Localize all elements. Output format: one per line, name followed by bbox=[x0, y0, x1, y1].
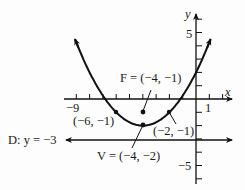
y-tick-neg5-label: −5 bbox=[178, 159, 191, 173]
x-axis-label: x bbox=[224, 85, 231, 99]
y-tick-5-label: 5 bbox=[186, 27, 192, 41]
parabola-arrow-left bbox=[75, 39, 78, 47]
right-point bbox=[167, 110, 171, 114]
y-axis-label: y bbox=[183, 7, 191, 21]
right-point-label: (−2, −1) bbox=[153, 124, 194, 138]
vertex-label: V = (−4, −2) bbox=[97, 149, 160, 163]
plot-canvas: y x 5 −5 −9 1 F = (−4, −1) (−6, −1) (−2,… bbox=[0, 0, 245, 190]
focus-point bbox=[141, 110, 146, 115]
x-tick-neg9-label: −9 bbox=[66, 101, 79, 115]
focus-leader bbox=[143, 90, 151, 111]
left-point-label: (−6, −1) bbox=[73, 114, 114, 128]
parabola-arrow-right bbox=[207, 39, 210, 47]
focus-label: F = (−4, −1) bbox=[120, 71, 181, 85]
directrix-label: D: y = −3 bbox=[8, 133, 56, 147]
vertex-point bbox=[141, 123, 146, 128]
x-tick-1-label: 1 bbox=[205, 101, 211, 115]
left-point bbox=[114, 110, 118, 114]
vertex-leader bbox=[132, 125, 143, 148]
parabola-figure: y x 5 −5 −9 1 F = (−4, −1) (−6, −1) (−2,… bbox=[0, 0, 245, 190]
